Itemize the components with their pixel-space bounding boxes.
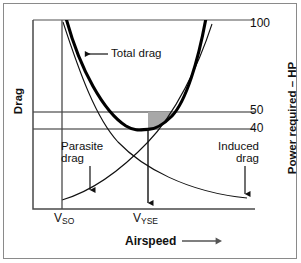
vso-main: V	[54, 211, 62, 225]
x-axis-label: Airspeed	[125, 235, 176, 248]
parasite-drag-line2: drag	[61, 152, 84, 164]
right-tick-100: 100	[250, 17, 270, 30]
vyse-subscript: YSE	[141, 216, 158, 226]
vyse-main: V	[133, 211, 141, 225]
vso-subscript: SO	[62, 216, 74, 226]
parasite-drag-label: Parasite drag	[61, 140, 103, 164]
total-drag-curve	[66, 18, 206, 130]
y-axis-label: Drag	[12, 71, 24, 131]
right-tick-50: 50	[250, 104, 263, 117]
x-marker-vyse: VYSE	[133, 212, 158, 225]
figure-frame: Drag Power required – HP 100 50 40 Total…	[0, 0, 301, 263]
total-drag-label: Total drag	[111, 47, 162, 59]
induced-drag-line1: Induced	[218, 140, 259, 152]
induced-drag-label: Induced drag	[197, 140, 259, 164]
right-tick-40: 40	[250, 122, 263, 135]
induced-drag-line2: drag	[236, 152, 259, 164]
right-axis-label: Power required – HP	[286, 33, 298, 203]
x-marker-vso: VSO	[54, 212, 74, 225]
parasite-drag-line1: Parasite	[61, 140, 103, 152]
